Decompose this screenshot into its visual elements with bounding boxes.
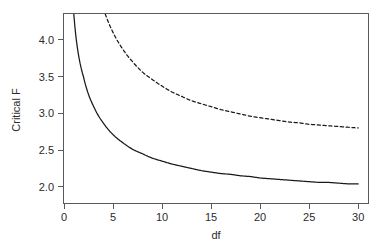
x-tick-label: 15 [205,211,217,223]
x-tick-label: 5 [110,211,116,223]
x-tick-label: 25 [303,211,315,223]
y-tick-label: 4.0 [39,34,54,46]
chart-figure: 051015202530 2.02.53.03.54.0 df Critical… [0,0,392,251]
chart-background [0,0,392,251]
y-tick-label: 3.0 [39,107,54,119]
x-axis-title: df [211,229,221,241]
y-axis-title: Critical F [10,88,22,132]
x-tick-label: 0 [61,211,67,223]
x-tick-label: 10 [156,211,168,223]
y-tick-label: 2.5 [39,144,54,156]
critical-f-line-chart: 051015202530 2.02.53.03.54.0 df Critical… [0,0,392,251]
x-tick-label: 30 [352,211,364,223]
x-tick-label: 20 [254,211,266,223]
y-tick-label: 3.5 [39,71,54,83]
y-tick-label: 2.0 [39,181,54,193]
